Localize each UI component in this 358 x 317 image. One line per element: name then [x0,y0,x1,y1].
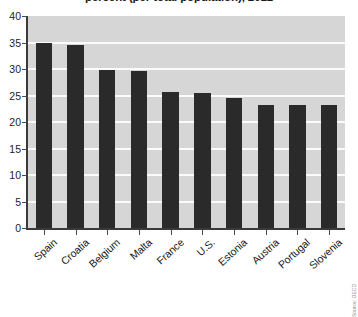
x-tick-mark [44,230,45,235]
y-tick-mark [22,43,27,44]
x-tick-label: France [154,236,186,266]
y-tick-label: 40 [9,10,21,22]
bar [162,92,178,228]
y-tick-mark [22,122,27,123]
x-tick-label: Malta [127,236,154,262]
x-tick-label: Austria [249,236,281,266]
chart-title: percent (per total population), 2012 [0,0,358,3]
y-tick-mark [22,175,27,176]
x-tick-mark [234,230,235,235]
x-tick-label: Belgium [87,236,123,270]
y-tick-label: 10 [9,169,21,181]
bar [99,70,115,228]
source-credit: Source: OECD [351,284,357,317]
x-tick-label: Spain [31,236,59,263]
gridline [28,42,345,44]
x-tick-label: Portugal [276,236,313,271]
x-tick-mark [139,230,140,235]
x-tick-label: Estonia [216,236,250,268]
x-tick-mark [171,230,172,235]
x-tick-mark [107,230,108,235]
x-tick-mark [329,230,330,235]
y-tick-mark [22,69,27,70]
y-tick-label: 0 [15,222,21,234]
bar [36,43,52,228]
bar [131,71,147,228]
y-axis: 0510152025303540 [0,0,24,286]
y-tick-label: 5 [15,196,21,208]
x-tick-mark [202,230,203,235]
bar [67,45,83,228]
y-tick-label: 35 [9,37,21,49]
y-tick-label: 15 [9,143,21,155]
bar [194,93,210,228]
x-tick-mark [266,230,267,235]
y-tick-mark [22,96,27,97]
x-tick-mark [76,230,77,235]
bar [258,105,274,228]
x-tick-mark [297,230,298,235]
y-tick-label: 30 [9,63,21,75]
y-tick-mark [22,228,27,229]
bar [226,98,242,228]
x-tick-label: Croatia [58,236,91,267]
bar [321,105,337,228]
y-tick-mark [22,202,27,203]
y-tick-mark [22,16,27,17]
plot-area [28,16,345,228]
y-tick-label: 20 [9,116,21,128]
y-tick-mark [22,149,27,150]
bar [289,105,305,228]
y-tick-label: 25 [9,90,21,102]
x-tick-label: Slovenia [307,236,344,271]
x-tick-label: U.S. [194,236,217,258]
